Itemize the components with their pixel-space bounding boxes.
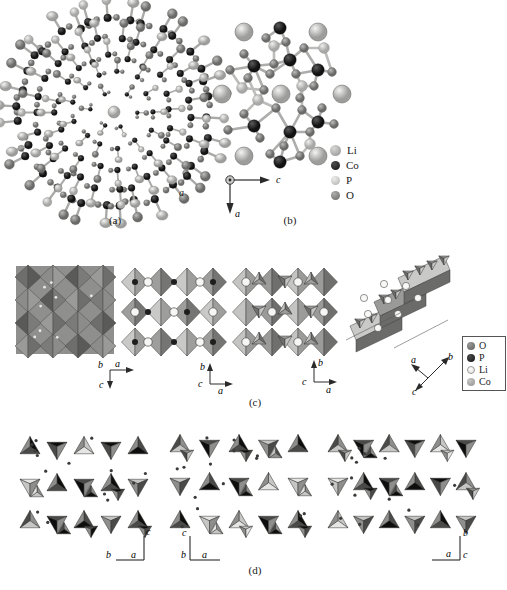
- legend-label-li: Li: [347, 145, 357, 155]
- axis-label-c: c: [302, 376, 307, 387]
- legend-label-co: Co: [346, 160, 359, 170]
- legend-panel-c: O P Li Co: [462, 336, 506, 391]
- panel-c-caption: (c): [235, 396, 275, 408]
- axis-label-b: b: [181, 549, 186, 560]
- legend-panel-b: Li Co P O: [330, 142, 359, 203]
- axis-label-a: a: [179, 187, 184, 198]
- panel-c1-axes: b a c: [98, 358, 146, 398]
- panel-b-caption: (b): [270, 214, 310, 226]
- panel-c1-polyhedra: [16, 266, 114, 354]
- legend-label-li: Li: [479, 365, 488, 375]
- axis-label-b: b: [463, 527, 468, 538]
- panel-c-view-3: [232, 266, 338, 354]
- axis-label-c: c: [198, 378, 203, 389]
- panel-a: a: [14, 14, 214, 210]
- panel-c-view-4: [344, 262, 452, 354]
- axis-label-c: c: [182, 527, 187, 538]
- legend-swatch-p: [331, 176, 340, 185]
- axis-label-c: c: [412, 386, 417, 397]
- axis-label-b: b: [106, 549, 111, 560]
- axis-label-a: a: [218, 385, 223, 396]
- legend-label-o: O: [479, 341, 486, 351]
- axis-label-a: a: [202, 549, 207, 560]
- legend-swatch-o: [467, 342, 475, 350]
- axis-label-a: a: [446, 548, 451, 559]
- legend-swatch-co: [331, 161, 340, 170]
- axis-label-a: a: [131, 549, 136, 560]
- panel-c4-axes: b a c: [410, 352, 462, 396]
- legend-label-p: P: [346, 175, 352, 185]
- legend-item: Co: [330, 158, 359, 172]
- axis-label-b: b: [98, 359, 103, 370]
- panel-d-view-2: [164, 430, 314, 538]
- panel-a-axis-a: a: [179, 182, 184, 200]
- axis-label-a: a: [411, 354, 416, 365]
- panel-d3-polyhedra: [322, 430, 482, 538]
- legend-item: O: [330, 188, 359, 202]
- figure-root: a (a) c a (b) Li Co P: [0, 0, 507, 590]
- panel-d2-axes: c b a: [180, 524, 240, 570]
- panel-b-axes: c a: [222, 172, 292, 220]
- panel-c-view-1: [16, 266, 114, 354]
- panel-d-view-3: [322, 430, 482, 538]
- legend-swatch-li: [467, 366, 475, 374]
- axis-label-a: a: [235, 208, 240, 219]
- axis-label-b: b: [318, 357, 323, 368]
- legend-swatch-co: [467, 378, 475, 386]
- axis-label-b: b: [448, 351, 453, 362]
- legend-item: O: [467, 340, 501, 351]
- legend-item: Li: [467, 364, 501, 375]
- axis-label-a: a: [115, 358, 120, 369]
- panel-d-caption: (d): [235, 564, 275, 576]
- panel-d2-polyhedra: [164, 430, 314, 538]
- panel-c2-axes: b c a: [196, 358, 244, 398]
- legend-swatch-li: [330, 145, 341, 156]
- panel-a-caption: (a): [95, 214, 135, 226]
- panel-c3-polyhedra: [232, 266, 338, 354]
- legend-item: P: [467, 352, 501, 363]
- panel-d1-polyhedra: [14, 432, 154, 538]
- legend-item: P: [330, 173, 359, 187]
- axis-label-c: c: [463, 549, 468, 560]
- panel-d3-axes: b a c: [420, 524, 482, 572]
- legend-label-o: O: [346, 190, 354, 200]
- panel-c4-polyhedra: [344, 262, 452, 354]
- legend-label-co: Co: [479, 377, 491, 387]
- axis-label-c: c: [99, 379, 104, 390]
- panel-d-view-1: [14, 432, 154, 538]
- axis-label-b: b: [200, 361, 205, 372]
- legend-item: Li: [330, 143, 359, 157]
- legend-label-p: P: [479, 353, 485, 363]
- panel-d1-axes: c b a: [100, 524, 160, 570]
- panel-c2-polyhedra: [122, 266, 226, 354]
- legend-item: Co: [467, 376, 501, 387]
- axis-label-c: c: [146, 526, 151, 537]
- panel-c-view-2: [122, 266, 226, 354]
- axis-label-a: a: [326, 384, 331, 395]
- axis-label-c: c: [276, 174, 281, 185]
- panel-c3-axes: b c a: [300, 354, 348, 396]
- legend-swatch-o: [331, 191, 340, 200]
- panel-a-structure: [14, 14, 214, 210]
- legend-swatch-p: [467, 354, 475, 362]
